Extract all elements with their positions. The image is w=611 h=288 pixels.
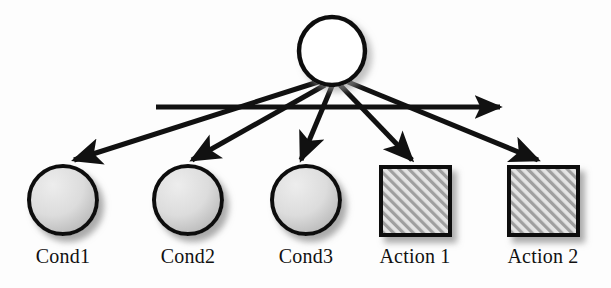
edge-group <box>74 82 538 160</box>
action-node-action1[interactable] <box>381 167 450 235</box>
node-label-cond2: Cond2 <box>161 245 215 267</box>
edge-root-action1 <box>340 85 412 160</box>
node-label-action1: Action 1 <box>379 245 450 267</box>
condition-node-cond1[interactable] <box>29 166 97 234</box>
diagram-canvas: Cond1 Cond2 Cond3 Action 1 Action 2 <box>0 0 611 288</box>
node-label-action2: Action 2 <box>507 245 578 267</box>
behaviour-tree-figure: Cond1 Cond2 Cond3 Action 1 Action 2 <box>0 0 611 288</box>
node-label-cond1: Cond1 <box>36 245 90 267</box>
condition-node-cond2[interactable] <box>154 166 222 234</box>
edge-root-cond1 <box>74 82 318 160</box>
node-label-cond3: Cond3 <box>279 245 333 267</box>
root-node[interactable] <box>299 17 365 85</box>
action-node-action2[interactable] <box>509 167 578 235</box>
condition-node-cond3[interactable] <box>272 166 340 234</box>
